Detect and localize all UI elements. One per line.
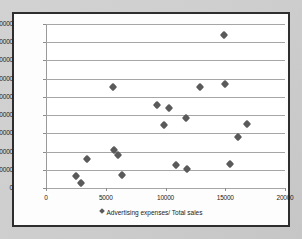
gridline [46,24,285,25]
y-tick-label: 30000 [0,129,13,136]
gridline [46,79,285,80]
y-tick-label: 80000 [0,38,13,45]
x-tick-label: 15000 [217,194,234,201]
y-tick-mark [43,115,46,116]
y-tick-label: 10000 [0,166,13,173]
x-tick-mark [285,188,286,191]
y-tick-label: 50000 [0,93,13,100]
gridline [46,115,285,116]
chart-screenshot: 9000080000700006000050000400003000020000… [0,0,302,239]
x-tick-mark [46,188,47,191]
y-tick-mark [43,97,46,98]
chart-frame: 9000080000700006000050000400003000020000… [12,12,290,227]
gridline [46,97,285,98]
x-tick-mark [166,188,167,191]
chart-legend: Advertising expenses/ Total sales [14,208,288,216]
gridline [46,42,285,43]
y-tick-mark [43,42,46,43]
legend-label: Advertising expenses/ Total sales [107,209,203,216]
y-tick-label: 70000 [0,56,13,63]
x-tick-mark [106,188,107,191]
plot-wrapper: 9000080000700006000050000400003000020000… [14,14,288,225]
y-tick-label: 20000 [0,148,13,155]
gridline [46,133,285,134]
y-tick-mark [43,133,46,134]
y-tick-label: 0 [0,184,13,191]
y-tick-mark [43,170,46,171]
y-tick-mark [43,60,46,61]
y-tick-label: 40000 [0,111,13,118]
y-tick-mark [43,24,46,25]
x-tick-label: 10000 [157,194,174,201]
gridline [46,170,285,171]
y-tick-mark [43,79,46,80]
x-tick-label: 20000 [276,194,293,201]
y-tick-label: 90000 [0,20,13,27]
gridline [46,60,285,61]
y-tick-mark [43,152,46,153]
gridline [46,152,285,153]
x-tick-label: 5000 [99,194,113,201]
x-tick-label: 0 [44,194,47,201]
y-tick-label: 60000 [0,75,13,82]
x-tick-mark [225,188,226,191]
diamond-marker-icon [99,208,105,214]
